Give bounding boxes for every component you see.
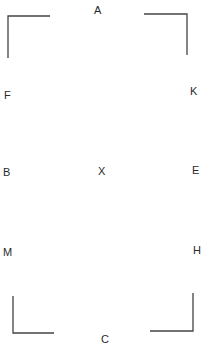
marker-e: E bbox=[192, 165, 199, 176]
marker-a: A bbox=[94, 5, 101, 16]
arena-corners bbox=[0, 0, 218, 343]
dressage-arena-diagram: A F K B X E M H C bbox=[0, 0, 218, 343]
marker-h: H bbox=[193, 245, 201, 256]
corner-bottom-left bbox=[13, 296, 54, 333]
marker-b: B bbox=[3, 167, 10, 178]
marker-c: C bbox=[101, 334, 109, 343]
marker-x: X bbox=[98, 166, 105, 177]
marker-f: F bbox=[4, 90, 11, 101]
marker-m: M bbox=[3, 247, 12, 258]
marker-k: K bbox=[190, 86, 197, 97]
corner-bottom-right bbox=[150, 293, 193, 331]
corner-top-left bbox=[8, 16, 50, 58]
corner-top-right bbox=[144, 14, 187, 55]
